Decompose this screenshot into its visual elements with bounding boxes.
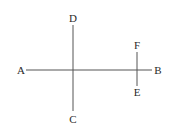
line-layer bbox=[0, 0, 170, 135]
point-label-d: D bbox=[69, 13, 77, 24]
point-label-a: A bbox=[17, 65, 25, 76]
point-label-e: E bbox=[134, 87, 141, 98]
diagram-canvas: A B C D E F bbox=[0, 0, 170, 135]
point-label-f: F bbox=[134, 40, 140, 51]
point-label-c: C bbox=[69, 114, 76, 125]
point-label-b: B bbox=[154, 65, 161, 76]
